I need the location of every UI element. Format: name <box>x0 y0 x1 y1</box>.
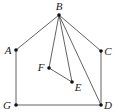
label-f: F <box>37 61 45 73</box>
graph-diagram: BACFEGD <box>0 0 114 112</box>
label-b: B <box>56 0 63 12</box>
node-c <box>99 49 103 53</box>
edge-b-f <box>49 15 59 68</box>
edge-b-a <box>16 15 59 50</box>
node-a <box>14 48 18 52</box>
label-a: A <box>4 44 12 56</box>
label-d: D <box>103 99 112 111</box>
edge-b-e <box>59 15 72 82</box>
label-g: G <box>3 99 11 111</box>
edges-group <box>16 15 101 105</box>
node-e <box>70 80 74 84</box>
label-c: C <box>104 45 112 57</box>
node-g <box>14 103 18 107</box>
edge-f-e <box>49 68 72 82</box>
node-b <box>57 13 61 17</box>
label-e: E <box>74 81 82 93</box>
node-f <box>47 66 51 70</box>
node-d <box>99 103 103 107</box>
nodes-group <box>14 13 103 107</box>
